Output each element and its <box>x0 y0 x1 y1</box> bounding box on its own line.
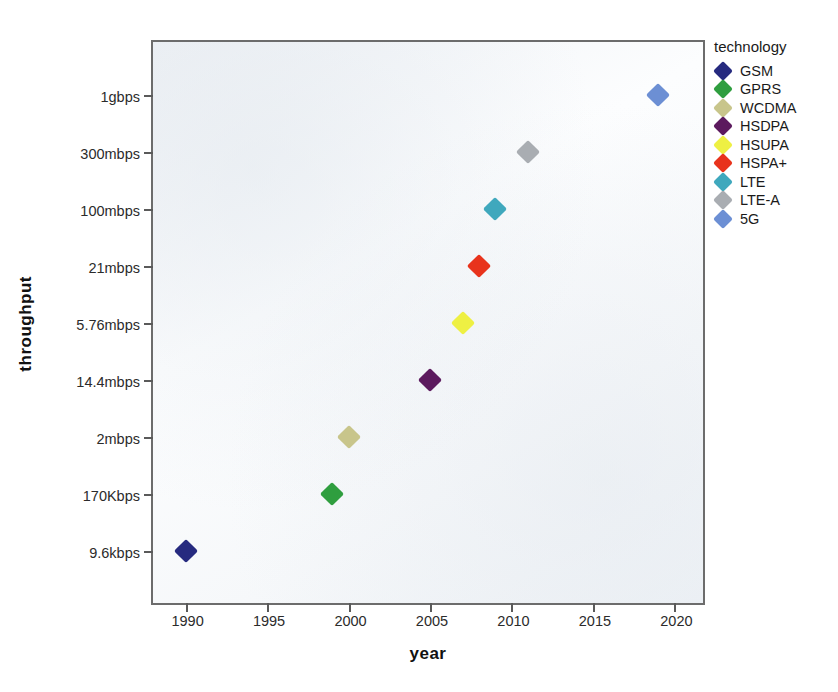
data-point-marker <box>451 311 475 335</box>
legend-item-label: GPRS <box>740 82 781 97</box>
y-axis-tick: 21mbps <box>144 266 153 268</box>
diamond-marker-icon <box>713 98 733 118</box>
y-axis-tick-label: 1gbps <box>100 89 140 105</box>
data-point-marker <box>467 254 491 278</box>
x-axis-tick: 2000 <box>349 603 351 612</box>
legend-item-hspa-[interactable]: HSPA+ <box>712 155 836 173</box>
legend-item-gprs[interactable]: GPRS <box>712 81 836 99</box>
legend-item-5g[interactable]: 5G <box>712 210 836 228</box>
y-axis-tick-label: 300mbps <box>80 146 140 162</box>
y-axis-title: throughput <box>16 276 38 372</box>
legend-item-hsupa[interactable]: HSUPA <box>712 136 836 154</box>
y-axis-tick-label: 5.76mbps <box>76 317 140 333</box>
legend-item-label: HSPA+ <box>740 156 787 171</box>
scatter-chart: throughput year 1gbps300mbps100mbps21mbp… <box>0 0 838 692</box>
legend-swatch-cell <box>712 155 740 173</box>
legend: technology GSMGPRSWCDMAHSDPAHSUPAHSPA+LT… <box>712 38 836 229</box>
y-axis-tick-label: 2mbps <box>96 431 140 447</box>
legend-swatch-cell <box>712 99 740 117</box>
legend-swatch-cell <box>712 136 740 154</box>
legend-items: GSMGPRSWCDMAHSDPAHSUPAHSPA+LTELTE-A5G <box>712 62 836 228</box>
y-axis-tick: 14.4mbps <box>144 380 153 382</box>
x-axis-tick: 2015 <box>593 603 595 612</box>
x-axis-tick: 1995 <box>267 603 269 612</box>
legend-item-label: HSDPA <box>740 119 789 134</box>
data-point-marker <box>516 140 540 164</box>
y-axis-tick: 170Kbps <box>144 494 153 496</box>
y-axis-tick-label: 100mbps <box>80 203 140 219</box>
diamond-marker-icon <box>713 116 733 136</box>
data-point-marker <box>483 197 507 221</box>
x-axis-tick: 2005 <box>430 603 432 612</box>
data-point-marker <box>646 83 670 107</box>
data-point-marker <box>174 539 198 563</box>
legend-swatch-cell <box>712 192 740 210</box>
diamond-marker-icon <box>713 153 733 173</box>
legend-title: technology <box>714 38 836 55</box>
legend-swatch-cell <box>712 118 740 136</box>
diamond-marker-icon <box>713 79 733 99</box>
legend-swatch-cell <box>712 62 740 80</box>
diamond-marker-icon <box>713 190 733 210</box>
legend-item-label: HSUPA <box>740 138 789 153</box>
legend-item-label: WCDMA <box>740 101 796 116</box>
x-axis-tick: 1990 <box>186 603 188 612</box>
legend-item-gsm[interactable]: GSM <box>712 62 836 80</box>
legend-item-wcdma[interactable]: WCDMA <box>712 99 836 117</box>
y-axis-tick-label: 21mbps <box>88 260 140 276</box>
diamond-marker-icon <box>713 209 733 229</box>
data-point-marker <box>336 425 360 449</box>
x-axis-tick-label: 1990 <box>171 613 203 629</box>
legend-swatch-cell <box>712 81 740 99</box>
legend-item-label: LTE-A <box>740 193 780 208</box>
y-axis-tick-label: 170Kbps <box>83 488 140 504</box>
y-axis-tick: 300mbps <box>144 152 153 154</box>
data-point-marker <box>320 482 344 506</box>
x-axis-tick-label: 1995 <box>253 613 285 629</box>
y-axis-tick: 2mbps <box>144 437 153 439</box>
x-axis-tick-label: 2020 <box>660 613 692 629</box>
legend-item-lte[interactable]: LTE <box>712 173 836 191</box>
diamond-marker-icon <box>713 135 733 155</box>
diamond-marker-icon <box>713 61 733 81</box>
x-axis-tick-label: 2015 <box>579 613 611 629</box>
x-axis-tick-label: 2005 <box>416 613 448 629</box>
plot-area: 1gbps300mbps100mbps21mbps5.76mbps14.4mbp… <box>151 40 705 605</box>
y-axis-tick: 1gbps <box>144 95 153 97</box>
x-axis-tick: 2020 <box>674 603 676 612</box>
diamond-marker-icon <box>713 172 733 192</box>
x-axis-tick-label: 2010 <box>497 613 529 629</box>
y-axis-tick: 100mbps <box>144 209 153 211</box>
y-axis-tick-label: 14.4mbps <box>76 374 140 390</box>
data-point-marker <box>418 368 442 392</box>
x-axis-tick-label: 2000 <box>334 613 366 629</box>
legend-item-label: LTE <box>740 175 766 190</box>
y-axis-tick: 5.76mbps <box>144 323 153 325</box>
x-axis-title: year <box>151 644 705 664</box>
x-axis-tick: 2010 <box>511 603 513 612</box>
y-axis-tick-label: 9.6kbps <box>89 545 140 561</box>
legend-item-lte-a[interactable]: LTE-A <box>712 192 836 210</box>
legend-swatch-cell <box>712 173 740 191</box>
legend-item-hsdpa[interactable]: HSDPA <box>712 118 836 136</box>
legend-item-label: 5G <box>740 212 759 227</box>
legend-swatch-cell <box>712 210 740 228</box>
y-axis-tick: 9.6kbps <box>144 551 153 553</box>
legend-item-label: GSM <box>740 64 773 79</box>
